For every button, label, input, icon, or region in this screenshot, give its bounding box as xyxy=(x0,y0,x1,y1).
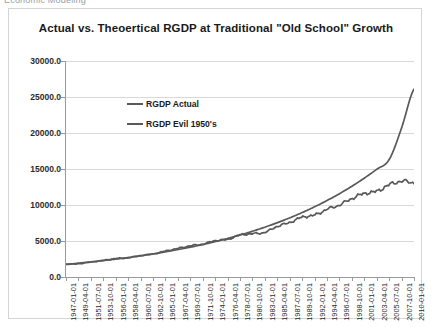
chart-frame: Actual vs. Theoertical RGDP at Tradition… xyxy=(8,8,422,319)
x-tick-label: 1962-10-01 xyxy=(156,283,165,321)
y-tick-label: 0.0 xyxy=(9,272,61,282)
legend-item-rgdp-evil-1950s: RGDP Evil 1950's xyxy=(127,117,217,131)
x-tick-label: 1976-04-01 xyxy=(231,283,240,321)
x-tick-label: 1956-01-01 xyxy=(119,283,128,321)
legend-swatch-rgdp-actual xyxy=(127,103,143,106)
legend-item-rgdp-actual: RGDP Actual xyxy=(127,97,217,111)
y-tick-label: 5000.0 xyxy=(9,236,61,246)
legend-swatch-rgdp-evil-1950s xyxy=(127,123,143,126)
x-tick-label: 1989-10-01 xyxy=(305,283,314,321)
x-tick-label: 1974-01-01 xyxy=(218,283,227,321)
x-tick-label: 1949-04-01 xyxy=(81,283,90,321)
y-tick-label: 30000.0 xyxy=(9,56,61,66)
x-tick-label: 1965-01-01 xyxy=(168,283,177,321)
x-tick-label: 1978-07-01 xyxy=(243,283,252,321)
series-line-rgdp-evil-1950s xyxy=(66,89,414,264)
x-tick-label: 2003-04-01 xyxy=(380,283,389,321)
plot-area xyxy=(66,61,414,277)
x-tick-label: 1998-10-01 xyxy=(355,283,364,321)
x-tick-label: 1969-07-01 xyxy=(193,283,202,321)
x-tick-label: 1951-07-01 xyxy=(94,283,103,321)
screenshot-root: Economic Modeling Actual vs. Theoertical… xyxy=(0,0,432,327)
clipped-top-text: Economic Modeling xyxy=(0,0,432,7)
x-tick-label: 1985-04-01 xyxy=(280,283,289,321)
x-tick-label: 1960-07-01 xyxy=(144,283,153,321)
clipped-top-text-label: Economic Modeling xyxy=(4,0,86,5)
x-tick-label: 2007-10-01 xyxy=(405,283,414,321)
chart-legend: RGDP Actual RGDP Evil 1950's xyxy=(127,97,217,137)
series-line-rgdp-actual xyxy=(66,180,414,265)
legend-label-rgdp-actual: RGDP Actual xyxy=(146,99,199,109)
x-tick-label: 1996-07-01 xyxy=(342,283,351,321)
x-axis-line xyxy=(65,277,414,278)
x-tick-label: 1958-04-01 xyxy=(131,283,140,321)
series-paths xyxy=(66,61,414,277)
y-tick-label: 10000.0 xyxy=(9,200,61,210)
x-tick-label: 1947-01-01 xyxy=(69,283,78,321)
x-tick-label: 1980-10-01 xyxy=(255,283,264,321)
x-tick-label: 1987-07-01 xyxy=(293,283,302,321)
x-tick-label: 2001-01-01 xyxy=(367,283,376,321)
legend-label-rgdp-evil-1950s: RGDP Evil 1950's xyxy=(146,119,217,129)
x-tick-mark xyxy=(414,277,415,281)
chart-title: Actual vs. Theoertical RGDP at Tradition… xyxy=(9,22,423,34)
x-tick-label: 2005-07-01 xyxy=(392,283,401,321)
x-tick-label: 1994-04-01 xyxy=(330,283,339,321)
x-tick-label: 2010-01-01 xyxy=(417,283,426,321)
x-tick-label: 1983-01-01 xyxy=(268,283,277,321)
x-tick-label: 1953-10-01 xyxy=(106,283,115,321)
x-tick-label: 1971-10-01 xyxy=(206,283,215,321)
y-tick-label: 20000.0 xyxy=(9,128,61,138)
y-tick-label: 15000.0 xyxy=(9,164,61,174)
x-tick-label: 1967-04-01 xyxy=(181,283,190,321)
x-tick-label: 1992-01-01 xyxy=(318,283,327,321)
y-tick-label: 25000.0 xyxy=(9,92,61,102)
